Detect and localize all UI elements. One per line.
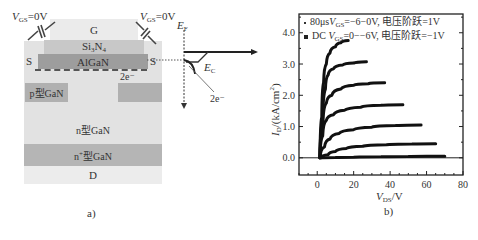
x-tick-label: 0 [315,179,320,190]
legend-item-dc: DC VGS=0−−6V, 电压阶跃=−1V [304,27,445,43]
iv-curve-4 [320,105,403,158]
x-tick-label: 60 [422,179,432,190]
y-tick-label: 1.0 [283,121,296,132]
legend-marker-small-dot-icon [304,22,306,24]
y-tick-label: 3.0 [283,59,296,70]
x-tick-label: 40 [385,179,395,190]
x-axis-label: VDS/V [376,190,403,204]
iv-curve-7 [321,156,445,158]
y-tick-label: 4.0 [283,27,296,38]
y-tick-label: 0.0 [283,152,296,163]
panel-b-caption: b) [384,205,393,217]
y-tick-label: 2.0 [283,90,296,101]
x-tick-label: 80 [458,179,468,190]
x-tick-label: 20 [349,179,359,190]
y-axis-label: ID/(kA/cm2) [268,83,283,136]
legend-marker-square-icon [304,35,308,39]
